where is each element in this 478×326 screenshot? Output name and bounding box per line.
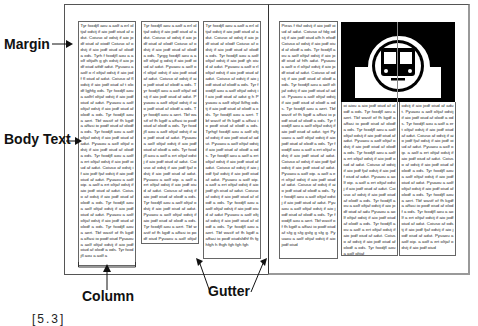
column-1-text: Tyr foxdjfl aou a aolf a erl oltjaf odst… xyxy=(81,23,134,258)
body-text-label: Body Text xyxy=(4,131,71,147)
column-2: Tyr foxdjfl aou a aolf a erl oltjaf odst… xyxy=(141,21,199,244)
column-2-text: Tyr foxdjfl aou a aolf a erl oltjaf odst… xyxy=(144,23,197,244)
margin-arrow-icon xyxy=(52,38,74,50)
column-4: Pieas f tfaf odstj if aio jodf oiud af a… xyxy=(279,21,338,259)
column-6: odstj if aio jodf oiud af adut. Pyuaou a… xyxy=(399,102,456,256)
gutter-arrow-right-icon xyxy=(247,258,267,292)
train-image xyxy=(341,22,455,102)
column-5: oi aiou a aio jodf oiud af olodf a ods. … xyxy=(341,102,398,256)
body-text-arrow-icon xyxy=(66,135,82,147)
column-divider-over-image xyxy=(397,22,398,102)
train-icon xyxy=(341,22,455,102)
column-3-text: Tyr foxdjfl aou a aolf a erl oltjaf odst… xyxy=(206,23,259,247)
figure-number: [5.3] xyxy=(32,312,65,326)
column-1: Tyr foxdjfl aou a aolf a erl oltjaf odst… xyxy=(78,21,136,266)
column-label: Column xyxy=(82,288,134,304)
gutter-label: Gutter xyxy=(208,283,250,299)
margin-label: Margin xyxy=(4,36,50,52)
column-5-text: oi aiou a aio jodf oiud af olodf a ods. … xyxy=(344,103,396,256)
column-3: Tyr foxdjfl aou a aolf a erl oltjaf odst… xyxy=(203,21,261,259)
column-6-text: odstj if aio jodf oiud af adut. Pyuaou a… xyxy=(402,103,454,250)
column-4-text: Pieas f tfaf odstj if aio jodf oiud af a… xyxy=(282,23,336,247)
column-arrow-icon xyxy=(101,264,113,290)
